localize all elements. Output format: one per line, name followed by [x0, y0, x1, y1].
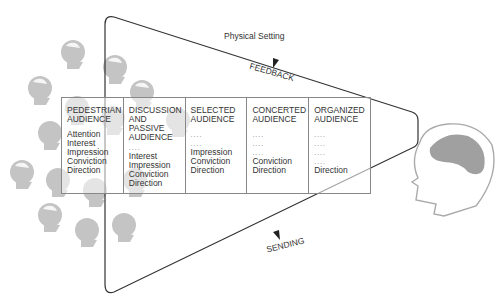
column-title: AUDIENCE: [129, 133, 185, 142]
stage-placeholder: ....: [252, 139, 308, 148]
column-organized-audience: ORGANIZED AUDIENCE .... .... .... .... D…: [309, 98, 370, 193]
stage-item: Direction: [252, 166, 308, 175]
column-title: AND PASSIVE: [129, 115, 185, 133]
column-selected-audience: SELECTED AUDIENCE .... .... Impression C…: [186, 98, 248, 193]
column-title: AUDIENCE: [314, 115, 370, 124]
stage-item: Direction: [314, 166, 370, 175]
stage-placeholder: ....: [252, 130, 308, 139]
column-discussion-passive-audience: DISCUSSION AND PASSIVE AUDIENCE .... Int…: [124, 98, 186, 193]
receiver-head-icon: [412, 124, 494, 216]
sending-arrow-icon: [273, 230, 280, 240]
physical-setting-label: Physical Setting: [224, 31, 284, 41]
stage-item: Direction: [191, 166, 247, 175]
audience-table: PEDESTRIAN AUDIENCE Attention Interest I…: [61, 97, 371, 194]
stage-item: Direction: [67, 166, 123, 175]
stage-item: Direction: [129, 179, 185, 188]
stage-placeholder: ....: [314, 130, 370, 139]
stage-placeholder: ....: [314, 148, 370, 157]
column-title: AUDIENCE: [252, 115, 308, 124]
stage-placeholder: ....: [191, 130, 247, 139]
column-title: AUDIENCE: [191, 115, 247, 124]
column-pedestrian-audience: PEDESTRIAN AUDIENCE Attention Interest I…: [62, 98, 124, 193]
column-title: AUDIENCE: [67, 115, 123, 124]
stage-placeholder: ....: [314, 139, 370, 148]
column-concerted-audience: CONCERTED AUDIENCE .... .... .... Convic…: [247, 98, 309, 193]
